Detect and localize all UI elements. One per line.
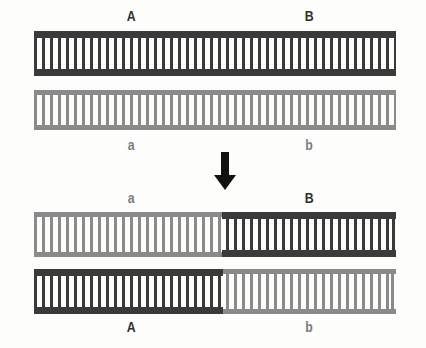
chromosome-segment-A [34, 269, 223, 314]
allele-label-top_group-above: A [121, 8, 141, 23]
chromosome-segment-a [34, 212, 222, 257]
chromosome-recombinant-2 [34, 269, 396, 314]
allele-label-bottom_group-below: A [121, 319, 141, 334]
chromosome-parental-2 [34, 90, 396, 130]
dna-backbone-rails [223, 269, 396, 314]
arrow-head-icon [214, 175, 236, 190]
chromosome-segment-a-b [34, 90, 396, 130]
dna-backbone-rails [34, 269, 223, 314]
chromosome-recombinant-1 [34, 212, 396, 257]
process-arrow [212, 152, 238, 190]
allele-label-top_group-above: B [299, 8, 319, 23]
chromosome-segment-A-B [34, 31, 396, 76]
allele-label-top_group-below: b [299, 137, 319, 152]
allele-label-bottom_group-above: a [121, 190, 141, 205]
dna-backbone-rails [34, 31, 396, 76]
chromosome-parental-1 [34, 31, 396, 76]
dna-backbone-rails [34, 212, 222, 257]
allele-label-bottom_group-above: B [299, 190, 319, 205]
recombination-diagram: ABabaBAb [0, 0, 426, 348]
chromosome-segment-b [223, 269, 396, 314]
arrow-shaft [221, 152, 229, 176]
dna-backbone-rails [222, 212, 396, 257]
allele-label-bottom_group-below: b [299, 319, 319, 334]
allele-label-top_group-below: a [121, 137, 141, 152]
chromosome-segment-B [222, 212, 396, 257]
dna-backbone-rails [34, 90, 396, 130]
